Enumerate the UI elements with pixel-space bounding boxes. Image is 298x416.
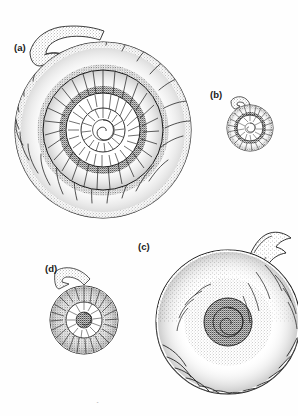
figure-label-c: (c) bbox=[138, 242, 150, 252]
figure-label-b: (b) bbox=[210, 90, 222, 100]
illustration-plate: (a) (b) (c) (d) cut-off caption text bbox=[0, 0, 298, 416]
figure-label-a: (a) bbox=[14, 43, 26, 53]
figure-label-d: (d) bbox=[45, 264, 57, 274]
caption-partial-text: cut-off caption text bbox=[62, 402, 131, 403]
ammonite-plate-drawing bbox=[0, 0, 298, 416]
specimen-d-protoconch bbox=[76, 312, 92, 328]
caption-strip: cut-off caption text bbox=[0, 402, 298, 416]
